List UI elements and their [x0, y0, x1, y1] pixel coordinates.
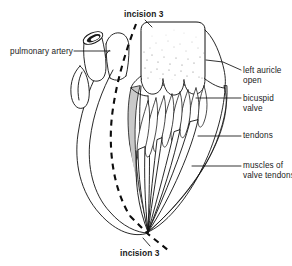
label-muscles-line1: muscles of: [243, 161, 292, 171]
label-left-auricle-open: left auricle open: [243, 66, 282, 86]
label-bicuspid-line1: bicuspid: [243, 94, 274, 104]
label-left-auricle-line1: left auricle: [243, 66, 282, 76]
bicuspid-valve: [131, 79, 225, 96]
label-tendons: tendons: [243, 131, 273, 141]
label-bicuspid-valve: bicuspid valve: [243, 94, 274, 114]
label-incision-bottom: incision 3: [120, 248, 160, 258]
label-pulmonary-artery: pulmonary artery: [10, 47, 73, 57]
label-muscles-of-valve-tendons: muscles of valve tendons: [243, 161, 292, 181]
label-left-auricle-line2: open: [243, 76, 282, 86]
label-muscles-line2: valve tendons: [243, 171, 292, 181]
label-bicuspid-line2: valve: [243, 104, 274, 114]
label-incision-top: incision 3: [124, 9, 164, 19]
leader-incision-bottom: [143, 238, 150, 246]
left-auricle-open: [131, 22, 225, 88]
